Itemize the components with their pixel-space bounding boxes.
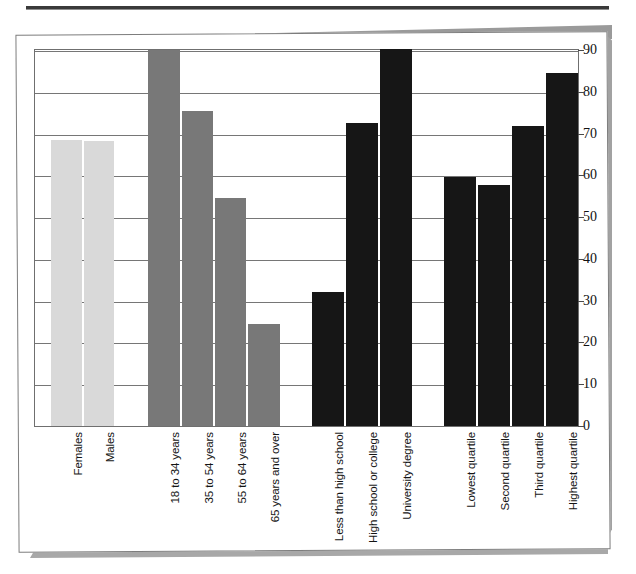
- x-axis-label: 18 to 34 years: [169, 432, 181, 503]
- y-axis-tick-mark: [578, 384, 584, 385]
- gridline-20: [35, 343, 578, 344]
- x-axis-label: High school or college: [367, 432, 379, 543]
- x-axis-labels: FemalesMales18 to 34 years35 to 54 years…: [34, 432, 594, 552]
- x-axis-label: Lowest quartile: [465, 432, 477, 508]
- x-axis-label: Third quartile: [533, 432, 545, 498]
- y-axis-tick-label: 30: [583, 294, 597, 308]
- gridline-60: [35, 176, 578, 177]
- x-axis-label: 65 years and over: [269, 432, 281, 522]
- x-axis-label-text: University degree: [401, 432, 413, 520]
- x-axis-label-text: 55 to 64 years: [236, 432, 248, 503]
- x-axis-label: 55 to 64 years: [236, 432, 248, 503]
- x-axis-label-text: Third quartile: [533, 432, 545, 498]
- x-axis-label: Highest quartile: [567, 432, 579, 510]
- y-axis-tick-mark: [578, 92, 584, 93]
- x-axis-label: Females: [72, 432, 84, 475]
- chart-page: 9080706050403020100 FemalesMales18 to 34…: [0, 0, 636, 574]
- y-axis-tick-mark: [578, 50, 584, 51]
- y-axis-tick-label: 0: [583, 419, 590, 433]
- y-axis-tick-mark: [578, 259, 584, 260]
- x-axis-label-text: Males: [104, 432, 116, 462]
- gridline-90: [35, 51, 578, 52]
- x-axis-label-text: Highest quartile: [567, 432, 579, 510]
- x-axis-label: Males: [104, 432, 116, 462]
- y-axis-tick-label: 40: [583, 252, 597, 266]
- y-axis-tick-label: 60: [583, 168, 597, 182]
- gridline-80: [35, 93, 578, 94]
- x-axis-label-text: Second quartile: [499, 432, 511, 510]
- x-axis-label: University degree: [401, 432, 413, 520]
- y-axis-tick-label: 90: [583, 43, 597, 57]
- y-axis-tick-mark: [578, 301, 584, 302]
- x-axis-label: Second quartile: [499, 432, 511, 510]
- y-axis-tick-label: 50: [583, 210, 597, 224]
- x-axis-label-text: 65 years and over: [269, 432, 281, 522]
- x-axis-label-text: High school or college: [367, 432, 379, 543]
- x-axis-label-text: Lowest quartile: [465, 432, 477, 508]
- y-axis-tick-label: 10: [583, 377, 597, 391]
- y-axis-tick-mark: [578, 175, 584, 176]
- gridline-10: [35, 385, 578, 386]
- y-axis-tick-mark: [578, 342, 584, 343]
- y-axis-tick-label: 70: [583, 127, 597, 141]
- x-axis-label-text: 18 to 34 years: [169, 432, 181, 503]
- x-axis-label-text: Females: [72, 432, 84, 475]
- plot-area: [34, 49, 579, 427]
- gridline-70: [35, 135, 578, 136]
- x-axis-label: 35 to 54 years: [203, 432, 215, 503]
- y-axis-tick-mark: [578, 134, 584, 135]
- x-axis-label: Less than high school: [333, 432, 345, 541]
- gridline-40: [35, 260, 578, 261]
- gridlines: [35, 50, 578, 426]
- gridline-30: [35, 302, 578, 303]
- y-axis-labels: 9080706050403020100: [583, 40, 623, 440]
- gridline-50: [35, 218, 578, 219]
- x-axis-label-text: 35 to 54 years: [203, 432, 215, 503]
- y-axis-tick-label: 80: [583, 85, 597, 99]
- top-rule-divider-shadow: [26, 9, 609, 10]
- x-axis-label-text: Less than high school: [333, 432, 345, 541]
- y-axis-tick-mark: [578, 217, 584, 218]
- y-axis-tick-mark: [578, 426, 584, 427]
- y-axis-tick-label: 20: [583, 335, 597, 349]
